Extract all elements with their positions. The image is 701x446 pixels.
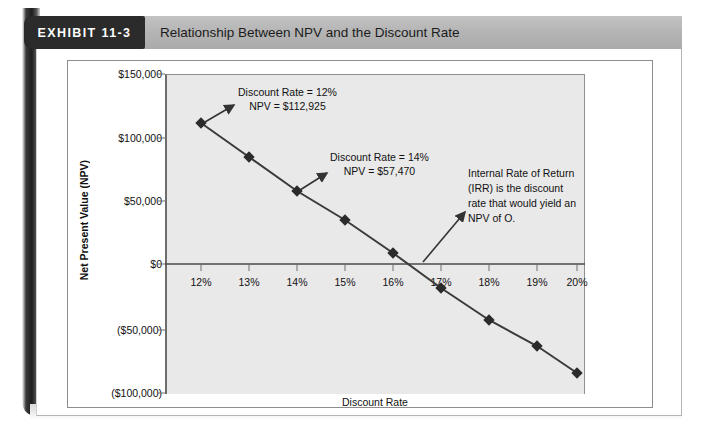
annotation-line: Discount Rate = 14%	[330, 150, 429, 164]
annotation-line: (IRR) is the discount	[468, 181, 576, 196]
y-tick-label: $100,000	[66, 132, 162, 144]
exhibit-page: EXHIBIT 11-3 Relationship Between NPV an…	[0, 0, 701, 446]
x-tick-label: 16%	[373, 276, 413, 288]
x-tick-label: 20%	[557, 276, 597, 288]
annotation-point-14pct: Discount Rate = 14% NPV = $57,470	[330, 150, 429, 179]
x-tick-label: 15%	[325, 276, 365, 288]
annotation-line: rate that would yield an	[468, 196, 576, 211]
x-tick-label: 13%	[229, 276, 269, 288]
plot-area	[165, 74, 585, 394]
annotation-line: NPV = $112,925	[238, 99, 337, 113]
x-axis-title: Discount Rate	[165, 396, 585, 408]
y-tick-label: ($100,000)	[66, 387, 162, 399]
y-tick-label: ($50,000)	[66, 324, 162, 336]
x-tick-label: 19%	[517, 276, 557, 288]
x-tick-label: 12%	[181, 276, 221, 288]
annotation-irr: Internal Rate of Return (IRR) is the dis…	[468, 166, 576, 226]
annotation-point-12pct: Discount Rate = 12% NPV = $112,925	[238, 85, 337, 114]
annotation-line: Discount Rate = 12%	[238, 85, 337, 99]
y-tick-label: $150,000	[66, 68, 162, 80]
y-axis-ticks: $150,000 $100,000 $50,000 $0 ($50,000) (…	[58, 0, 162, 446]
x-tick-label: 14%	[277, 276, 317, 288]
x-tick-label: 18%	[469, 276, 509, 288]
annotation-line: Internal Rate of Return	[468, 166, 576, 181]
y-axis-title: Net Present Value (NPV)	[78, 160, 98, 280]
exhibit-title: Relationship Between NPV and the Discoun…	[160, 16, 459, 49]
annotation-line: NPV = $57,470	[330, 164, 429, 178]
x-tick-label: 17%	[421, 276, 461, 288]
annotation-line: NPV of O.	[468, 211, 576, 226]
